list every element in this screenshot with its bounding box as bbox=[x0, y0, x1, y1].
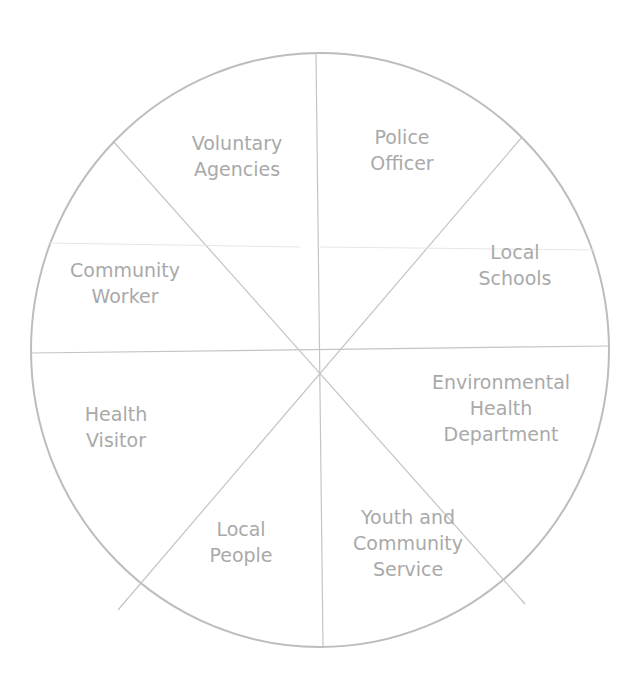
segment-label-line: Community bbox=[70, 257, 180, 283]
segment-label-line: Voluntary bbox=[192, 130, 283, 156]
segment-label-line: Local bbox=[209, 516, 272, 542]
segment-label-line: Visitor bbox=[85, 427, 147, 453]
segment-label-line: Health bbox=[85, 401, 147, 427]
segment-label: Youth andCommunityService bbox=[353, 504, 463, 582]
segment-label-line: Youth and bbox=[353, 504, 463, 530]
segment-label-line: Health bbox=[432, 395, 570, 421]
faint-guide-right bbox=[320, 247, 596, 250]
segment-label-line: Environmental bbox=[432, 369, 570, 395]
faint-guide-left bbox=[48, 243, 300, 247]
segment-label-line: Officer bbox=[370, 150, 433, 176]
segment-label-line: Worker bbox=[70, 283, 180, 309]
segment-label: PoliceOfficer bbox=[370, 124, 433, 176]
segment-label-line: Schools bbox=[479, 265, 552, 291]
segment-label-line: Police bbox=[370, 124, 433, 150]
segment-label: EnvironmentalHealthDepartment bbox=[432, 369, 570, 447]
circle-diagram bbox=[0, 0, 635, 685]
segment-label-line: People bbox=[209, 542, 272, 568]
segment-label: HealthVisitor bbox=[85, 401, 147, 453]
segment-label: VoluntaryAgencies bbox=[192, 130, 283, 182]
segment-label: CommunityWorker bbox=[70, 257, 180, 309]
segment-label: LocalPeople bbox=[209, 516, 272, 568]
segment-label-line: Service bbox=[353, 556, 463, 582]
segment-label-line: Local bbox=[479, 239, 552, 265]
segment-label-line: Community bbox=[353, 530, 463, 556]
segment-label-line: Agencies bbox=[192, 156, 283, 182]
segment-label: LocalSchools bbox=[479, 239, 552, 291]
segment-label-line: Department bbox=[432, 421, 570, 447]
